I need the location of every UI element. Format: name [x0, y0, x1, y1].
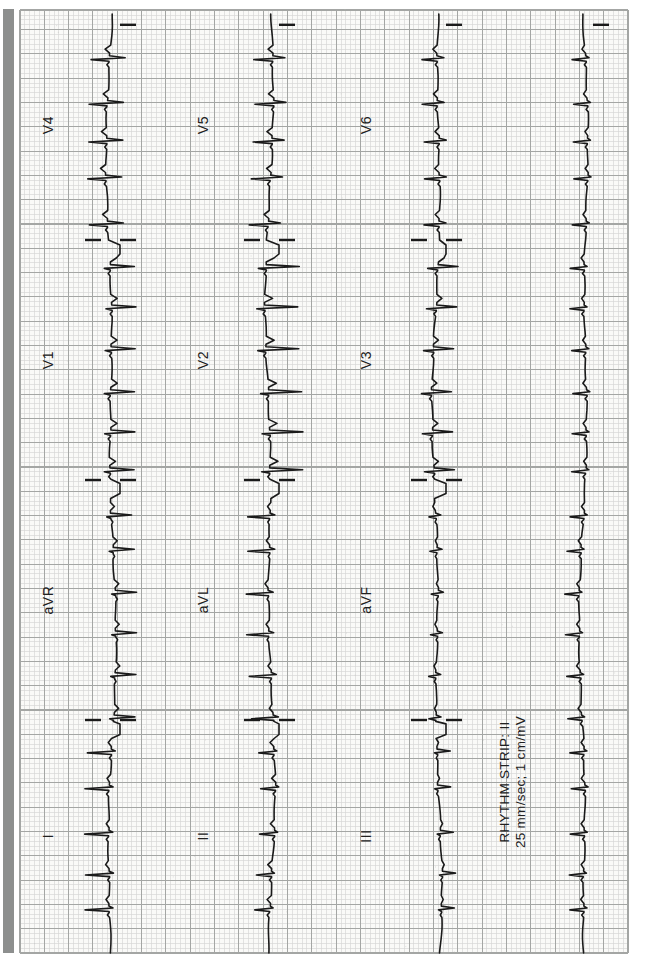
lead-separator-tick — [244, 719, 260, 721]
lead-separator-tick — [279, 479, 295, 481]
lead-separator-tick — [411, 479, 427, 481]
lead-label-i: I — [40, 834, 56, 839]
lead-label-v4: V4 — [40, 116, 56, 134]
scanned-ecg-page: IaVRV1V4IIaVLV2V5IIIaVFV3V6RHYTHM STRIP:… — [0, 0, 647, 976]
rhythm-strip-label-line2: 25 mm/sec; 1 cm/mV — [513, 716, 528, 848]
lead-label-v3: V3 — [358, 351, 374, 369]
lead-label-v1: V1 — [40, 351, 56, 369]
lead-separator-tick — [411, 719, 427, 721]
rhythm-strip-label-line1: RHYTHM STRIP: II — [497, 721, 512, 842]
lead-label-v2: V2 — [195, 351, 211, 369]
lead-label-avf: aVF — [358, 586, 374, 613]
lead-separator-tick — [244, 239, 260, 241]
lead-separator-tick — [244, 479, 260, 481]
ecg-landscape-group: IaVRV1V4IIaVLV2V5IIIaVFV3V6RHYTHM STRIP:… — [20, 9, 628, 953]
lead-separator-tick — [446, 719, 462, 721]
lead-separator-tick — [446, 239, 462, 241]
lead-label-v6: V6 — [358, 116, 374, 134]
lead-separator-tick — [120, 239, 136, 241]
lead-label-ii: II — [195, 832, 211, 841]
row-end-tick — [446, 24, 462, 26]
row-end-tick — [279, 24, 295, 26]
page-edge-bar — [3, 9, 14, 953]
lead-separator-tick — [279, 719, 295, 721]
lead-label-avl: aVL — [195, 587, 211, 614]
lead-separator-tick — [446, 479, 462, 481]
lead-label-v5: V5 — [195, 116, 211, 134]
row-end-tick — [593, 24, 609, 26]
lead-separator-tick — [85, 239, 101, 241]
row-end-tick — [120, 24, 136, 26]
lead-separator-tick — [85, 719, 101, 721]
lead-separator-tick — [120, 479, 136, 481]
lead-separator-tick — [279, 239, 295, 241]
ecg-chart: IaVRV1V4IIaVLV2V5IIIaVFV3V6RHYTHM STRIP:… — [0, 0, 647, 976]
lead-label-avr: aVR — [40, 585, 56, 614]
lead-separator-tick — [85, 479, 101, 481]
lead-separator-tick — [120, 719, 136, 721]
lead-label-iii: III — [358, 829, 374, 842]
lead-separator-tick — [411, 239, 427, 241]
